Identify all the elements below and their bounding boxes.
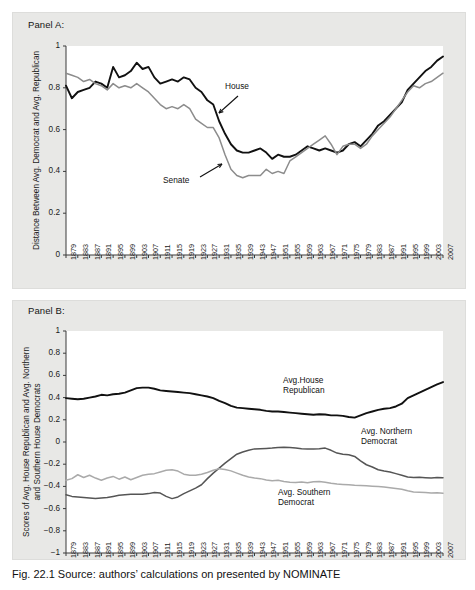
annotation-senate: Senate — [163, 175, 189, 185]
x-tick-label: 1999 — [422, 542, 431, 558]
x-tick-label: 1891 — [104, 244, 113, 260]
x-tick-label: 1899 — [128, 542, 137, 558]
x-tick-label: 1983 — [375, 244, 384, 260]
x-tick-label: 1923 — [199, 244, 208, 260]
x-tick-label: 1895 — [116, 542, 125, 558]
x-tick-label: 1999 — [422, 244, 431, 260]
x-tick-label: 1939 — [246, 542, 255, 558]
panelB-y-axis-title: Scores of Avg. House Republican and Avg.… — [22, 331, 43, 553]
x-tick-label: 1955 — [293, 542, 302, 558]
x-tick-label: 1927 — [210, 542, 219, 558]
x-tick-label: 1951 — [281, 542, 290, 558]
x-tick-label: 1947 — [269, 244, 278, 260]
annotation-house: House — [225, 81, 249, 91]
x-tick-label: 1931 — [222, 244, 231, 260]
x-tick-label: 2003 — [434, 244, 443, 260]
x-tick-label: 1987 — [387, 244, 396, 260]
x-tick-label: 1879 — [69, 244, 78, 260]
x-tick-label: 1955 — [293, 244, 302, 260]
x-tick-label: 2003 — [434, 542, 443, 558]
x-tick-label: 1979 — [364, 542, 373, 558]
x-tick-label: 1971 — [340, 542, 349, 558]
x-tick-label: 2007 — [446, 244, 455, 260]
figure-caption: Fig. 22.1 Source: authors’ calculations … — [12, 568, 462, 580]
x-tick-label: 1883 — [81, 244, 90, 260]
x-tick-label: 1883 — [81, 542, 90, 558]
annotation-house-republican: Avg.House Republican — [283, 375, 325, 395]
annotation-northern-democrat: Avg. Northern Democrat — [361, 426, 412, 446]
x-tick-label: 1991 — [399, 244, 408, 260]
x-tick-label: 1959 — [305, 244, 314, 260]
x-tick-label: 1915 — [175, 542, 184, 558]
x-tick-label: 1923 — [199, 542, 208, 558]
x-tick-label: 1919 — [187, 542, 196, 558]
annotation-house-arrow — [219, 96, 238, 113]
x-tick-label: 1991 — [399, 542, 408, 558]
x-tick-label: 1967 — [328, 542, 337, 558]
x-tick-label: 1939 — [246, 244, 255, 260]
x-tick-label: 1899 — [128, 244, 137, 260]
x-tick-label: 2007 — [446, 542, 455, 558]
figure-container: Panel A: Panel B: 00.20.40.60.8118791883… — [0, 0, 475, 590]
x-tick-label: 1987 — [387, 542, 396, 558]
series-line-avg-house-republican — [66, 382, 443, 418]
x-tick-label: 1975 — [352, 244, 361, 260]
x-tick-label: 1891 — [104, 542, 113, 558]
x-tick-label: 1935 — [234, 244, 243, 260]
annotation-senate-arrow — [200, 164, 222, 177]
x-tick-label: 1903 — [140, 244, 149, 260]
series-line-senate — [66, 73, 443, 178]
x-tick-label: 1943 — [258, 244, 267, 260]
annotation-southern-democrat: Avg. Southern Democrat — [278, 487, 330, 507]
x-tick-label: 1919 — [187, 244, 196, 260]
x-tick-label: 1907 — [151, 244, 160, 260]
x-tick-label: 1911 — [163, 245, 172, 260]
x-tick-label: 1943 — [258, 542, 267, 558]
series-line-house — [66, 56, 443, 158]
x-tick-label: 1963 — [316, 542, 325, 558]
x-tick-label: 1963 — [316, 244, 325, 260]
x-tick-label: 1895 — [116, 244, 125, 260]
x-tick-label: 1959 — [305, 542, 314, 558]
x-tick-label: 1975 — [352, 542, 361, 558]
x-tick-label: 1971 — [340, 244, 349, 260]
x-tick-label: 1879 — [69, 542, 78, 558]
x-tick-label: 1983 — [375, 542, 384, 558]
x-tick-label: 1935 — [234, 542, 243, 558]
x-tick-label: 1951 — [281, 244, 290, 260]
series-line-avg-southern-democrat — [66, 469, 443, 494]
x-tick-label: 1947 — [269, 542, 278, 558]
x-tick-label: 1995 — [411, 244, 420, 260]
series-line-avg-northern-democrat — [66, 447, 443, 498]
x-tick-label: 1911 — [163, 543, 172, 558]
x-tick-label: 1907 — [151, 542, 160, 558]
x-tick-label: 1931 — [222, 542, 231, 558]
x-tick-label: 1927 — [210, 244, 219, 260]
x-tick-label: 1967 — [328, 244, 337, 260]
x-tick-label: 1995 — [411, 542, 420, 558]
x-tick-label: 1979 — [364, 244, 373, 260]
panelA-y-axis-title: Distance Between Avg. Democrat and Avg. … — [32, 46, 42, 255]
x-tick-label: 1887 — [93, 244, 102, 260]
x-tick-label: 1915 — [175, 244, 184, 260]
x-tick-label: 1903 — [140, 542, 149, 558]
x-tick-label: 1887 — [93, 542, 102, 558]
